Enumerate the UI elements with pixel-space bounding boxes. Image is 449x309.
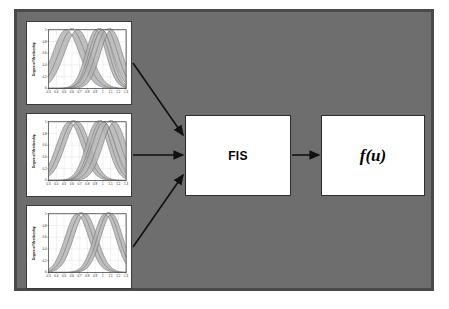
diagram-canvas: mf1mf2mf30.30.40.50.60.70.80.911.11.21.3… (14, 9, 434, 291)
svg-text:1.1: 1.1 (109, 274, 113, 278)
svg-text:0.6: 0.6 (70, 90, 74, 94)
svg-text:1.2: 1.2 (116, 182, 120, 186)
svg-text:0.6: 0.6 (43, 51, 47, 55)
plot-inner-1: mf1mf2mf30.30.40.50.60.70.80.911.11.21.3… (27, 22, 131, 104)
svg-text:0.8: 0.8 (43, 132, 47, 136)
output-label: f(u) (360, 146, 386, 166)
svg-text:1.2: 1.2 (116, 90, 120, 94)
svg-text:1: 1 (102, 274, 104, 278)
svg-text:0.3: 0.3 (47, 182, 51, 186)
svg-text:0.4: 0.4 (54, 182, 58, 186)
fis-block: FIS (185, 115, 291, 196)
svg-text:0.8: 0.8 (85, 182, 89, 186)
svg-text:0.6: 0.6 (43, 143, 47, 147)
svg-text:1.2: 1.2 (116, 274, 120, 278)
arrow-input-3-to-fis (133, 175, 183, 247)
svg-text:1.3: 1.3 (124, 182, 128, 186)
svg-text:0.9: 0.9 (93, 90, 97, 94)
svg-text:0.9: 0.9 (93, 182, 97, 186)
svg-text:0.5: 0.5 (62, 90, 66, 94)
plot-inner-2: mf1mf2mf30.30.40.50.60.70.80.911.11.21.3… (27, 114, 131, 196)
svg-text:0.4: 0.4 (54, 274, 58, 278)
membership-plot-input-3: mf1mf20.30.40.50.60.70.80.911.11.21.300.… (26, 205, 132, 289)
svg-text:0.3: 0.3 (47, 90, 51, 94)
svg-text:1.3: 1.3 (124, 274, 128, 278)
svg-text:0.6: 0.6 (70, 182, 74, 186)
svg-text:0.3: 0.3 (47, 274, 51, 278)
svg-text:0.5: 0.5 (62, 274, 66, 278)
svg-text:0.2: 0.2 (43, 259, 47, 263)
svg-text:0.6: 0.6 (43, 235, 47, 239)
svg-text:0.4: 0.4 (43, 63, 47, 67)
membership-chart-1: mf1mf2mf30.30.40.50.60.70.80.911.11.21.3… (27, 22, 131, 104)
svg-text:0.8: 0.8 (43, 224, 47, 228)
plot-inner-3: mf1mf20.30.40.50.60.70.80.911.11.21.300.… (27, 206, 131, 288)
membership-chart-3: mf1mf20.30.40.50.60.70.80.911.11.21.300.… (27, 206, 131, 288)
figure-root: mf1mf2mf30.30.40.50.60.70.80.911.11.21.3… (0, 0, 449, 309)
svg-text:0.5: 0.5 (62, 182, 66, 186)
svg-text:0.9: 0.9 (93, 274, 97, 278)
svg-text:Degree of Membership: Degree of Membership (32, 42, 36, 76)
svg-text:1.3: 1.3 (124, 90, 128, 94)
membership-plot-input-2: mf1mf2mf30.30.40.50.60.70.80.911.11.21.3… (26, 113, 132, 197)
svg-text:0.8: 0.8 (85, 90, 89, 94)
output-block: f(u) (321, 115, 425, 196)
svg-text:0.2: 0.2 (43, 75, 47, 79)
svg-text:1: 1 (45, 212, 47, 216)
svg-text:0.6: 0.6 (70, 274, 74, 278)
svg-text:0.4: 0.4 (54, 90, 58, 94)
svg-text:Degree of Membership: Degree of Membership (32, 226, 36, 260)
membership-chart-2: mf1mf2mf30.30.40.50.60.70.80.911.11.21.3… (27, 114, 131, 196)
svg-text:0.2: 0.2 (43, 167, 47, 171)
svg-text:1: 1 (45, 120, 47, 124)
svg-text:0.7: 0.7 (78, 182, 82, 186)
arrow-input-1-to-fis (133, 63, 183, 135)
svg-text:1.1: 1.1 (109, 182, 113, 186)
svg-text:0.4: 0.4 (43, 247, 47, 251)
svg-text:Degree of Membership: Degree of Membership (32, 134, 36, 168)
fis-label: FIS (228, 149, 248, 163)
svg-text:0.8: 0.8 (43, 40, 47, 44)
svg-text:0.7: 0.7 (78, 274, 82, 278)
svg-text:1: 1 (45, 28, 47, 32)
svg-text:0.8: 0.8 (85, 274, 89, 278)
svg-text:1: 1 (102, 90, 104, 94)
svg-text:0.7: 0.7 (78, 90, 82, 94)
svg-text:0.4: 0.4 (43, 155, 47, 159)
membership-plot-input-1: mf1mf2mf30.30.40.50.60.70.80.911.11.21.3… (26, 21, 132, 105)
svg-text:1.1: 1.1 (109, 90, 113, 94)
svg-text:1: 1 (102, 182, 104, 186)
